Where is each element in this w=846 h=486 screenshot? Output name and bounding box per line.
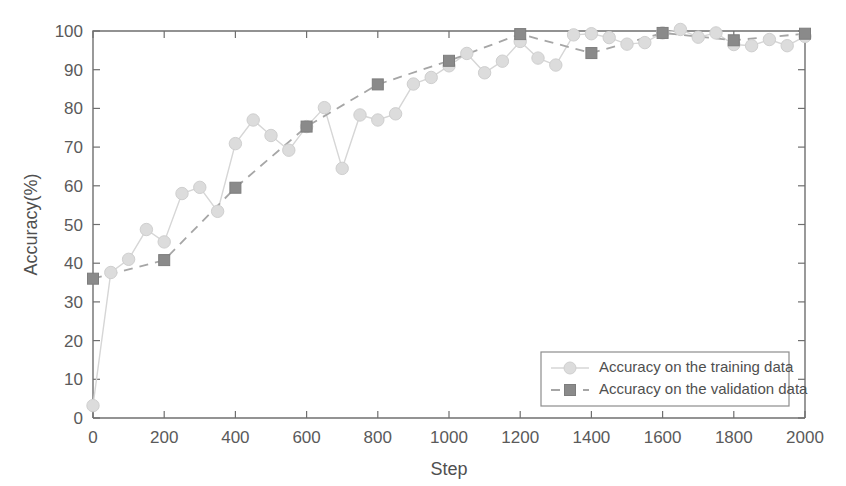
y-tick-label: 10 — [64, 370, 83, 389]
y-tick-label: 100 — [55, 22, 83, 41]
training-data-point — [354, 109, 366, 121]
training-data-point — [639, 36, 651, 48]
x-tick-label: 200 — [150, 428, 178, 447]
x-tick-label: 1200 — [501, 428, 539, 447]
training-data-point — [87, 399, 99, 411]
training-data-point — [407, 78, 419, 90]
y-tick-label: 70 — [64, 138, 83, 157]
y-tick-label: 80 — [64, 99, 83, 118]
training-data-point — [211, 205, 223, 217]
training-data-point — [532, 52, 544, 64]
x-tick-label: 600 — [292, 428, 320, 447]
chart-legend: Accuracy on the training dataAccuracy on… — [541, 352, 808, 406]
training-data-point — [710, 27, 722, 39]
validation-data-point — [230, 182, 241, 193]
training-data-point — [496, 55, 508, 67]
training-data-point — [745, 40, 757, 52]
training-data-point — [603, 31, 615, 43]
y-tick-label: 40 — [64, 254, 83, 273]
validation-data-point — [657, 27, 668, 38]
validation-data-point — [444, 55, 455, 66]
training-data-point — [478, 67, 490, 79]
validation-data-point — [728, 35, 739, 46]
x-tick-label: 2000 — [786, 428, 824, 447]
training-data-point — [318, 101, 330, 113]
x-tick-label: 400 — [221, 428, 249, 447]
training-data-point — [781, 40, 793, 52]
x-tick-label: 1600 — [644, 428, 682, 447]
y-tick-label: 60 — [64, 177, 83, 196]
training-series-line — [93, 29, 805, 405]
training-data-point — [194, 181, 206, 193]
training-data-point — [229, 137, 241, 149]
x-axis-title: Step — [430, 459, 467, 479]
validation-data-point — [301, 121, 312, 132]
training-data-point — [585, 28, 597, 40]
y-tick-label: 90 — [64, 61, 83, 80]
y-tick-label: 30 — [64, 293, 83, 312]
legend-marker-circle-icon — [564, 362, 576, 374]
training-data-point — [265, 129, 277, 141]
x-tick-label: 1800 — [715, 428, 753, 447]
training-data-point — [122, 253, 134, 265]
training-data-point — [692, 31, 704, 43]
x-tick-label: 1000 — [430, 428, 468, 447]
y-tick-label: 0 — [74, 409, 83, 428]
training-data-point — [336, 162, 348, 174]
validation-data-point — [586, 48, 597, 59]
training-data-point — [389, 108, 401, 120]
training-data-point — [461, 47, 473, 59]
x-tick-label: 1400 — [572, 428, 610, 447]
training-data-point — [283, 144, 295, 156]
training-data-point — [425, 71, 437, 83]
training-data-point — [247, 114, 259, 126]
legend-marker-square-icon — [565, 385, 576, 396]
accuracy-line-chart: 0102030405060708090100020040060080010001… — [0, 0, 846, 486]
validation-data-point — [515, 29, 526, 40]
training-data-point — [621, 38, 633, 50]
chart-figure: 0102030405060708090100020040060080010001… — [0, 0, 846, 486]
y-tick-label: 20 — [64, 332, 83, 351]
training-data-point — [140, 223, 152, 235]
training-data-point — [763, 33, 775, 45]
legend-entry-label: Accuracy on the training data — [599, 358, 794, 375]
validation-data-point — [88, 273, 99, 284]
training-data-point — [105, 266, 117, 278]
training-data-point — [550, 59, 562, 71]
validation-data-point — [800, 28, 811, 39]
y-tick-label: 50 — [64, 216, 83, 235]
training-data-point — [176, 187, 188, 199]
y-axis-title: Accuracy(%) — [21, 173, 41, 275]
training-data-point — [674, 23, 686, 35]
legend-entry-label: Accuracy on the validation data — [599, 380, 808, 397]
validation-data-point — [159, 255, 170, 266]
x-tick-label: 800 — [364, 428, 392, 447]
x-tick-label: 0 — [88, 428, 97, 447]
training-data-point — [158, 236, 170, 248]
training-data-point — [372, 114, 384, 126]
training-data-point — [567, 29, 579, 41]
validation-data-point — [372, 79, 383, 90]
